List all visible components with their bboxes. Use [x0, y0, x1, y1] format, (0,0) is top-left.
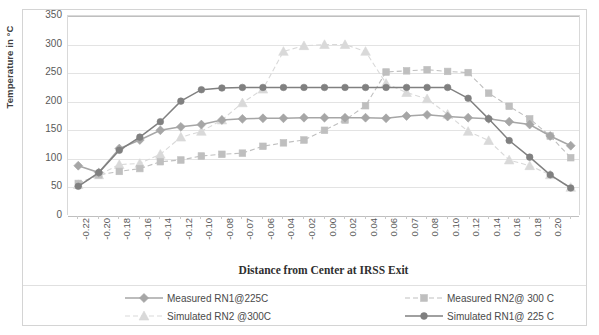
legend-item[interactable]: Measured RN1@225C — [123, 290, 268, 306]
data-point-triangle — [238, 98, 248, 107]
data-point-square — [403, 68, 410, 75]
data-point-square — [198, 153, 205, 160]
data-point-circle — [157, 118, 164, 125]
y-axis-title: Temperature in °C — [4, 0, 18, 147]
y-axis-tick-label: 150 — [22, 124, 62, 134]
data-point-circle — [403, 84, 410, 91]
data-point-circle — [178, 98, 185, 105]
data-point-square — [239, 150, 246, 157]
data-point-diamond — [361, 113, 370, 122]
data-point-circle — [485, 116, 492, 123]
x-axis-tick-label: 0.20 — [553, 218, 595, 260]
x-axis-tick — [467, 216, 468, 219]
legend-item[interactable]: Measured RN2@ 300 C — [403, 290, 554, 306]
x-axis-tick — [570, 216, 571, 219]
x-axis-tick — [159, 216, 160, 219]
data-point-triangle — [525, 161, 535, 170]
x-axis-tick — [241, 216, 242, 219]
x-axis-tick — [139, 216, 140, 219]
data-point-triangle — [361, 47, 371, 56]
data-point-circle — [567, 185, 574, 192]
data-point-square — [383, 69, 390, 76]
data-point-diamond — [443, 112, 452, 121]
data-point-triangle — [139, 311, 149, 320]
data-point-square — [280, 140, 287, 147]
x-axis-tick — [508, 216, 509, 219]
data-point-triangle — [299, 41, 309, 50]
series-0 — [74, 110, 575, 177]
x-axis-tick — [77, 216, 78, 219]
data-point-diamond — [258, 114, 267, 123]
data-point-diamond — [505, 117, 514, 126]
data-point-circle — [95, 169, 102, 176]
data-point-circle — [321, 84, 328, 91]
y-axis-tick-label: 250 — [22, 67, 62, 77]
data-point-square — [465, 69, 472, 76]
data-point-circle — [301, 84, 308, 91]
data-point-square — [362, 102, 369, 109]
x-axis-tick — [180, 216, 181, 219]
x-axis-tick — [324, 216, 325, 219]
legend-item[interactable]: Simulated RN1@ 225 C — [403, 308, 554, 324]
data-point-square — [178, 157, 185, 164]
legend-marker-circle-icon — [403, 309, 445, 323]
data-point-triangle — [484, 136, 494, 145]
x-axis-tick — [118, 216, 119, 219]
data-point-square — [424, 66, 431, 73]
y-axis-tick-label: 100 — [22, 153, 62, 163]
x-axis-tick — [200, 216, 201, 219]
plot-area — [67, 15, 580, 215]
chart-container: Temperature in °C 050100150200250300350 … — [0, 0, 599, 335]
data-point-diamond — [156, 126, 165, 135]
data-point-diamond — [139, 293, 148, 302]
data-point-square — [137, 165, 144, 172]
data-point-circle — [280, 84, 287, 91]
data-point-circle — [424, 84, 431, 91]
x-axis-tick — [221, 216, 222, 219]
x-axis-tick — [303, 216, 304, 219]
data-point-diamond — [279, 114, 288, 123]
legend-label: Measured RN1@225C — [165, 293, 268, 304]
data-point-circle — [383, 84, 390, 91]
x-axis-tick-labels: -0.22-0.20-0.18-0.16-0.14-0.12-0.10-0.08… — [67, 216, 580, 262]
data-point-circle — [421, 313, 428, 320]
series-line — [78, 87, 570, 188]
y-axis-tick-label: 200 — [22, 96, 62, 106]
y-axis-tick-label: 350 — [22, 10, 62, 20]
series-layer — [68, 16, 581, 216]
data-point-triangle — [422, 94, 432, 103]
x-axis-title: Distance from Center at IRSS Exit — [67, 264, 580, 276]
y-axis-tick-label: 0 — [22, 210, 62, 220]
data-point-square — [116, 168, 123, 175]
data-point-diamond — [176, 122, 185, 131]
data-point-square — [260, 143, 267, 150]
data-point-circle — [116, 147, 123, 154]
legend-marker-diamond-icon — [123, 291, 165, 305]
data-point-square — [321, 127, 328, 134]
legend-marker-triangle-icon — [123, 309, 165, 323]
data-point-circle — [239, 84, 246, 91]
data-point-square — [219, 151, 226, 158]
x-axis-tick — [282, 216, 283, 219]
data-point-circle — [219, 85, 226, 92]
x-axis-tick — [549, 216, 550, 219]
data-point-square — [444, 68, 451, 75]
data-point-diamond — [74, 161, 83, 170]
legend-label: Simulated RN1@ 225 C — [445, 311, 554, 322]
x-axis-tick — [447, 216, 448, 219]
legend-item[interactable]: Simulated RN2 @300C — [123, 308, 271, 324]
data-point-circle — [260, 84, 267, 91]
data-point-diamond — [402, 112, 411, 121]
x-axis-tick — [385, 216, 386, 219]
y-axis-tick-labels: 050100150200250300350 — [22, 9, 66, 224]
x-axis-tick — [98, 216, 99, 219]
legend-label: Measured RN2@ 300 C — [445, 293, 554, 304]
x-axis-tick — [488, 216, 489, 219]
data-point-circle — [547, 172, 554, 179]
data-point-triangle — [504, 155, 514, 164]
data-point-diamond — [197, 120, 206, 129]
data-point-square — [567, 154, 574, 161]
data-point-triangle — [156, 150, 166, 159]
x-axis-tick — [529, 216, 530, 219]
data-point-square — [301, 137, 308, 144]
